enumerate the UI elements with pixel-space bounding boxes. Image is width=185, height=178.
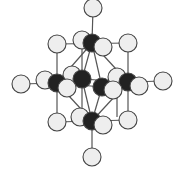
white-atom — [48, 113, 66, 131]
white-atom — [119, 111, 137, 129]
white-atom — [130, 77, 148, 95]
white-atom — [48, 35, 66, 53]
white-atom — [94, 116, 112, 134]
white-atom — [84, 0, 102, 17]
octahedral-cluster-diagram — [0, 0, 185, 178]
white-atom — [94, 38, 112, 56]
white-atom — [12, 75, 30, 93]
white-atom — [119, 34, 137, 52]
white-atom — [154, 72, 172, 90]
white-atom — [104, 81, 122, 99]
white-atom — [83, 148, 101, 166]
white-atom — [58, 79, 76, 97]
